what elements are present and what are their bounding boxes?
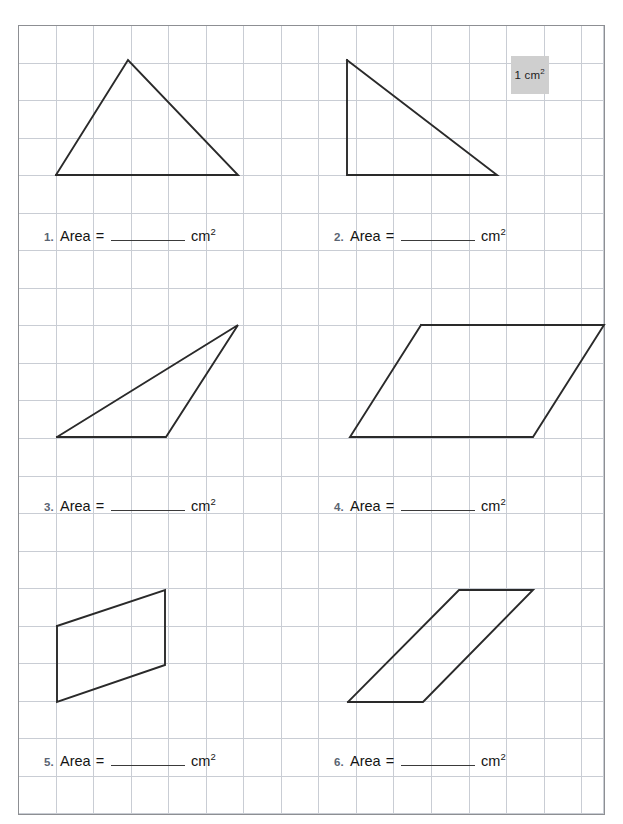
problem-6-equals: =	[386, 753, 394, 769]
problem-6-area-label: Area	[350, 753, 381, 769]
problem-2-equals: =	[386, 228, 394, 244]
problem-3-unit-text: cm	[191, 498, 210, 514]
problem-2-unit: cm2	[481, 228, 506, 244]
problem-3-unit: cm2	[191, 498, 216, 514]
problem-2-area-label: Area	[350, 228, 381, 244]
unit-square-legend: 1 cm2	[511, 56, 549, 94]
problem-4-answer-blank[interactable]	[401, 499, 475, 511]
problem-4-prompt: 4. Area = cm2	[334, 498, 506, 514]
problem-3-number: 3.	[44, 501, 54, 513]
grid-lines	[19, 26, 604, 814]
problem-3-area-label: Area	[60, 498, 91, 514]
problem-2-unit-exponent: 2	[500, 226, 505, 237]
problem-4-unit: cm2	[481, 498, 506, 514]
problem-1-unit-text: cm	[191, 228, 210, 244]
problem-3-equals: =	[96, 498, 104, 514]
legend-unit: cm	[525, 69, 541, 81]
problem-1-unit: cm2	[191, 228, 216, 244]
problem-5-unit-exponent: 2	[210, 751, 215, 762]
problem-1-equals: =	[96, 228, 104, 244]
problem-5-equals: =	[96, 753, 104, 769]
worksheet-page: 1 cm2 1. Area = cm2 2. Area = cm2 3. Are…	[0, 0, 623, 824]
legend-value: 1	[515, 69, 522, 81]
problem-2-unit-text: cm	[481, 228, 500, 244]
problem-6-unit-exponent: 2	[500, 751, 505, 762]
problem-4-equals: =	[386, 498, 394, 514]
problem-5-answer-blank[interactable]	[111, 754, 185, 766]
problem-1-number: 1.	[44, 231, 54, 243]
problem-1-answer-blank[interactable]	[111, 229, 185, 241]
problem-5-unit: cm2	[191, 753, 216, 769]
legend-exponent: 2	[540, 67, 545, 76]
problem-3-unit-exponent: 2	[210, 496, 215, 507]
problem-2-answer-blank[interactable]	[401, 229, 475, 241]
problem-4-area-label: Area	[350, 498, 381, 514]
problem-5-unit-text: cm	[191, 753, 210, 769]
problem-1-area-label: Area	[60, 228, 91, 244]
problem-6-unit-text: cm	[481, 753, 500, 769]
problem-1-prompt: 1. Area = cm2	[44, 228, 216, 244]
problem-6-prompt: 6. Area = cm2	[334, 753, 506, 769]
problem-3-prompt: 3. Area = cm2	[44, 498, 216, 514]
problem-5-area-label: Area	[60, 753, 91, 769]
problem-1-unit-exponent: 2	[210, 226, 215, 237]
grid-sheet	[18, 25, 605, 815]
problem-5-prompt: 5. Area = cm2	[44, 753, 216, 769]
problem-2-prompt: 2. Area = cm2	[334, 228, 506, 244]
problem-3-answer-blank[interactable]	[111, 499, 185, 511]
unit-square-legend-label: 1 cm2	[515, 69, 545, 81]
problem-4-number: 4.	[334, 501, 344, 513]
problem-4-unit-exponent: 2	[500, 496, 505, 507]
problem-5-number: 5.	[44, 756, 54, 768]
problem-6-unit: cm2	[481, 753, 506, 769]
problem-6-number: 6.	[334, 756, 344, 768]
problem-2-number: 2.	[334, 231, 344, 243]
problem-6-answer-blank[interactable]	[401, 754, 475, 766]
problem-4-unit-text: cm	[481, 498, 500, 514]
